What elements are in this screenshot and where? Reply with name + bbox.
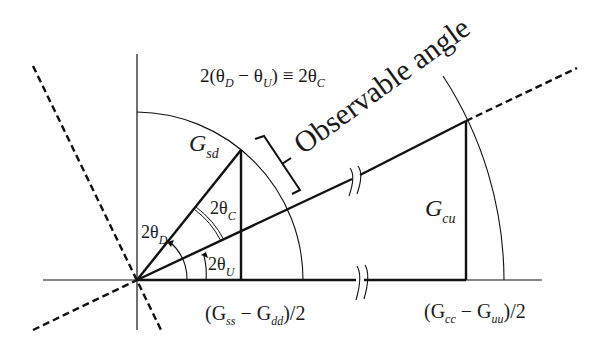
- gcu-vector-2: [360, 121, 466, 175]
- break-mark-axis: [356, 265, 368, 300]
- gcu-label: Gcu: [425, 195, 456, 226]
- theta-u-arc: [204, 256, 206, 280]
- gcu-vector-1: [137, 179, 352, 280]
- axis-label-right: (Gcc − Guu)/2: [424, 300, 526, 326]
- dashed-axis-shallow-upper: [466, 68, 577, 121]
- theta-d-label: 2θD: [141, 222, 168, 247]
- theta-c-label: 2θC: [210, 198, 237, 223]
- dashed-axis-shallow-lower: [33, 280, 137, 330]
- observable-angle-diagram: Observable angle 2(θD − θU) ≡ 2θC Gsd Gc…: [0, 0, 609, 349]
- dashed-axis-steep: [33, 66, 161, 330]
- axis-label-left: (Gss − Gdd)/2: [205, 302, 305, 328]
- theta-u-label: 2θU: [208, 254, 236, 279]
- outer-arc: [443, 76, 504, 280]
- equation: 2(θD − θU) ≡ 2θC: [200, 65, 326, 90]
- observable-bracket: [255, 136, 300, 194]
- break-mark-vector: [349, 166, 361, 196]
- bracket-tick: [282, 158, 291, 164]
- gsd-label: Gsd: [189, 130, 220, 161]
